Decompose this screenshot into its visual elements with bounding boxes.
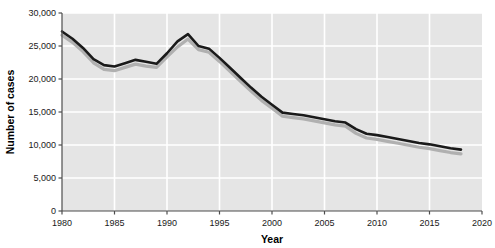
y-axis-title: Number of cases — [4, 70, 16, 155]
line-chart: 198019851990199520002005201020152020 05,… — [0, 0, 495, 248]
y-tick-label: 20,000 — [28, 74, 56, 84]
x-tick-label: 1985 — [104, 218, 124, 228]
x-tick-labels: 198019851990199520002005201020152020 — [52, 218, 492, 228]
y-tick-label: 15,000 — [28, 107, 56, 117]
x-tick-label: 1990 — [157, 218, 177, 228]
x-axis-title: Year — [261, 233, 283, 245]
y-tick-label: 25,000 — [28, 41, 56, 51]
x-tick-label: 2010 — [367, 218, 387, 228]
x-tick-label: 2000 — [262, 218, 282, 228]
x-tick-label: 2020 — [472, 218, 492, 228]
x-tick-label: 1980 — [52, 218, 72, 228]
y-tick-label: 10,000 — [28, 140, 56, 150]
x-tick-label: 2005 — [314, 218, 334, 228]
chart-svg: 198019851990199520002005201020152020 05,… — [0, 0, 495, 248]
x-tick-label: 1995 — [209, 218, 229, 228]
y-tick-label: 5,000 — [33, 173, 56, 183]
y-tick-label: 30,000 — [28, 8, 56, 18]
x-tick-label: 2015 — [419, 218, 439, 228]
y-tick-label: 0 — [51, 206, 56, 216]
